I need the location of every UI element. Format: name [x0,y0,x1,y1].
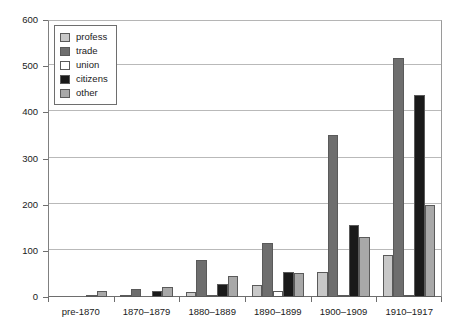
bar-group [383,20,436,297]
legend-label: other [76,88,98,98]
x-tick-mark [48,297,49,302]
y-tick-label: 200 [22,200,38,210]
y-tick-label: 400 [22,108,38,118]
bar-citizens [414,95,425,297]
bar-other [228,276,239,297]
x-tick-label: 1900–1909 [320,307,368,317]
legend-item-citizens[interactable]: citizens [60,72,108,86]
bar-group [317,20,370,297]
bar-other [294,273,305,297]
x-tick-mark [179,297,180,302]
y-tick-label: 300 [22,154,38,164]
legend-swatch-icon [60,75,70,84]
x-tick-mark [114,297,115,302]
x-axis: pre-18701870–18791880–18891890–18991900–… [48,297,442,331]
bar-chart: 0100200300400500600 pre-18701870–1879188… [0,0,464,331]
x-tick-mark [441,297,442,302]
legend-item-union[interactable]: union [60,58,108,72]
x-tick-mark [376,297,377,302]
legend-label: citizens [76,74,108,84]
legend-label: profess [76,32,107,42]
y-tick-label: 0 [33,292,38,302]
legend-swatch-icon [60,61,70,70]
x-tick-label: 1880–1889 [188,307,236,317]
bar-trade [131,289,142,297]
bar-trade [262,243,273,297]
bar-other [425,205,436,297]
bar-citizens [349,225,360,297]
bar-trade [393,58,404,297]
bar-other [162,287,173,297]
x-tick-mark [311,297,312,302]
x-tick-label: 1870–1879 [123,307,171,317]
bar-profess [317,272,328,297]
legend-item-other[interactable]: other [60,86,108,100]
bar-profess [383,255,394,297]
y-axis: 0100200300400500600 [0,0,48,331]
bar-group [252,20,305,297]
y-tick-label: 600 [22,15,38,25]
bar-trade [328,135,339,297]
y-tick-label: 100 [22,246,38,256]
bar-profess [252,285,263,297]
legend-label: union [76,60,99,70]
chart-legend: professtradeunioncitizensother [54,25,117,105]
legend-swatch-icon [60,33,70,42]
bar-trade [196,260,207,297]
legend-swatch-icon [60,89,70,98]
bar-group [120,20,173,297]
bar-citizens [217,284,228,297]
legend-item-profess[interactable]: profess [60,30,108,44]
bar-citizens [283,272,294,297]
legend-label: trade [76,46,98,56]
legend-item-trade[interactable]: trade [60,44,108,58]
x-tick-label: 1910–1917 [385,307,433,317]
x-tick-label: 1890–1899 [254,307,302,317]
x-tick-mark [245,297,246,302]
x-tick-label: pre-1870 [62,307,100,317]
bar-group [186,20,239,297]
y-tick-label: 500 [22,61,38,71]
legend-swatch-icon [60,47,70,56]
bar-other [359,237,370,297]
